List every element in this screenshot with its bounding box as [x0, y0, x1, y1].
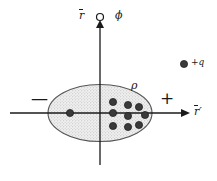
azimuth-angle-label: ϕ — [115, 10, 123, 21]
charge-dot — [135, 103, 142, 110]
charge-dot — [66, 109, 73, 116]
charge-dot — [109, 98, 116, 105]
vertical-axis-label: r — [79, 10, 84, 21]
origin-open-circle-marker — [97, 14, 104, 21]
vertical-axis-arrowhead — [96, 20, 104, 28]
point-charge-dot — [180, 60, 187, 67]
charge-density-label: ρ — [131, 80, 137, 91]
charge-dot — [109, 109, 116, 116]
minus-sign-label: — — [31, 90, 48, 107]
charge-dot — [109, 122, 116, 129]
horizontal-axis-prime-mark: ′ — [199, 105, 202, 118]
vertical-axis-label-text: r — [79, 10, 84, 21]
horizontal-axis-arrowhead — [181, 109, 190, 117]
horizontal-axis-label-text: r — [194, 106, 199, 117]
point-charge-label: +q — [191, 58, 204, 67]
charge-dot — [141, 111, 148, 118]
charge-dot — [124, 101, 131, 108]
horizontal-axis-label: r′ — [194, 106, 202, 117]
charge-dot — [135, 121, 142, 128]
charge-dot — [124, 123, 131, 130]
plus-sign-label: + — [160, 90, 174, 107]
charge-dot — [124, 112, 131, 119]
physics-figure: r ϕ ρ r′ +q — + — [0, 0, 217, 181]
